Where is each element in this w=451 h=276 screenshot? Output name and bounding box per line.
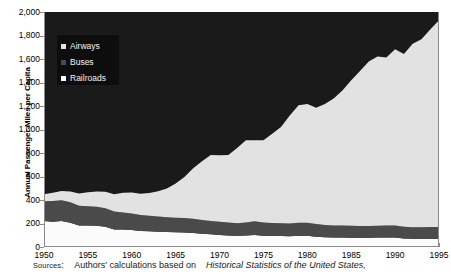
y-tick-label: 2,000 [2, 8, 40, 17]
source-colon: : [61, 260, 64, 270]
y-tick-label: 1,000 [2, 125, 40, 134]
y-tick-label: 200 [2, 219, 40, 228]
y-tick-label: 1,600 [2, 55, 40, 64]
legend-label-railroads: Railroads [70, 74, 106, 83]
legend-swatch-airways [61, 44, 66, 49]
figure-panel: Annual Passenger-Miles per Capita 020040… [0, 0, 451, 276]
x-tick-mark [439, 243, 440, 247]
y-tick-label: 1,800 [2, 31, 40, 40]
y-tick-label: 600 [2, 172, 40, 181]
chart-legend: Airways Buses Railroads [57, 35, 119, 85]
legend-swatch-railroads [61, 76, 66, 81]
legend-label-buses: Buses [70, 58, 94, 67]
legend-item-buses: Buses [61, 55, 94, 69]
source-note: Sources: Authors' calculations based on … [33, 259, 445, 272]
y-tick-label: 400 [2, 196, 40, 205]
source-body: Authors' calculations based on [74, 260, 196, 270]
legend-item-railroads: Railroads [61, 71, 106, 85]
legend-swatch-buses [61, 60, 66, 65]
y-tick-label: 800 [2, 149, 40, 158]
y-tick-label: 1,400 [2, 78, 40, 87]
legend-item-airways: Airways [61, 39, 100, 53]
source-citation-title: Historical Statistics of the United Stat… [206, 260, 366, 270]
y-tick-label: 1,200 [2, 102, 40, 111]
source-label: Sources [33, 261, 61, 270]
y-tick-mark [40, 247, 44, 248]
legend-label-airways: Airways [70, 42, 100, 51]
